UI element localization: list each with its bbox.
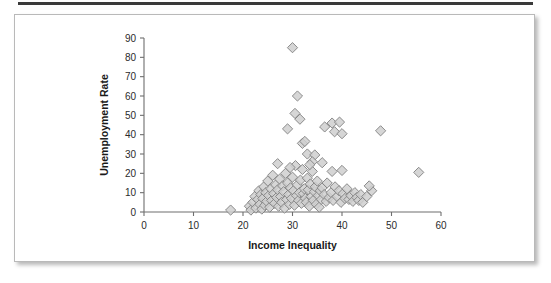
data-point-marker	[327, 166, 337, 176]
y-tick-label: 30	[125, 149, 137, 160]
x-tick-label: 40	[336, 220, 348, 231]
y-tick-label: 50	[125, 110, 137, 121]
figure-card: 01020304050607080900102030405060Income I…	[14, 14, 535, 262]
x-tick-label: 20	[237, 220, 249, 231]
y-tick-label: 20	[125, 168, 137, 179]
data-point-marker	[317, 158, 327, 168]
data-point-marker	[273, 159, 283, 169]
data-point-marker	[292, 91, 302, 101]
scatter-plot: 01020304050607080900102030405060Income I…	[15, 15, 536, 263]
data-point-marker	[226, 205, 236, 215]
data-point-marker	[414, 167, 424, 177]
data-point-marker	[334, 117, 344, 127]
data-point-marker	[282, 124, 292, 134]
y-tick-label: 80	[125, 52, 137, 63]
x-tick-label: 50	[386, 220, 398, 231]
top-divider-rule	[18, 2, 533, 5]
y-tick-label: 0	[130, 207, 136, 218]
data-point-marker	[337, 165, 347, 175]
y-axis-title: Unemployment Rate	[98, 74, 110, 176]
x-tick-label: 30	[287, 220, 299, 231]
x-tick-label: 60	[435, 220, 447, 231]
y-tick-label: 90	[125, 33, 137, 44]
x-tick-label: 0	[141, 220, 147, 231]
data-point-marker	[287, 43, 297, 53]
y-tick-label: 10	[125, 187, 137, 198]
data-point-marker	[376, 126, 386, 136]
x-axis-title: Income Inequality	[248, 239, 337, 251]
x-tick-label: 10	[188, 220, 200, 231]
y-tick-label: 70	[125, 71, 137, 82]
y-tick-label: 40	[125, 129, 137, 140]
y-tick-label: 60	[125, 91, 137, 102]
screenshot-root: 01020304050607080900102030405060Income I…	[0, 0, 551, 283]
